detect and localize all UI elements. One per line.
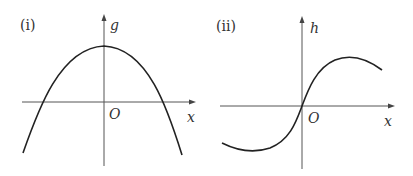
x-axis-label-ii: x	[384, 113, 392, 129]
panel-i: (i) g O x	[20, 14, 196, 166]
y-axis-arrow-icon	[300, 16, 305, 23]
x-axis-arrow-icon	[388, 104, 395, 109]
panel-ii: (ii) h O x	[216, 16, 395, 169]
panel-i-label: (i)	[20, 17, 35, 33]
y-axis-arrow-icon	[102, 14, 107, 21]
curve-g	[23, 46, 182, 155]
y-axis-label-h: h	[310, 20, 319, 36]
y-axis-label-g: g	[110, 17, 119, 33]
x-axis-arrow-icon	[189, 100, 196, 105]
panel-ii-label: (ii)	[216, 18, 236, 34]
origin-label-i: O	[109, 106, 121, 122]
figure-canvas: (i) g O x (ii) h O x	[0, 0, 413, 176]
x-axis-label-i: x	[187, 109, 195, 125]
origin-label-ii: O	[308, 110, 320, 126]
